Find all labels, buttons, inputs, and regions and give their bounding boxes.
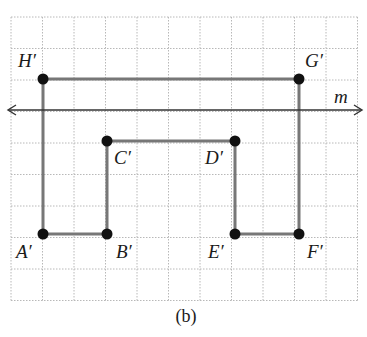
polygon-outline bbox=[43, 79, 299, 234]
label-f-prime: F′ bbox=[306, 241, 324, 262]
label-a-prime: A′ bbox=[14, 241, 33, 262]
reflection-diagram: H′G′C′D′A′B′E′F′ m (b) bbox=[0, 0, 367, 337]
point-g-prime bbox=[294, 74, 305, 85]
line-m-label: m bbox=[334, 86, 348, 107]
label-c-prime: C′ bbox=[114, 147, 132, 168]
point-a-prime bbox=[38, 229, 49, 240]
label-b-prime: B′ bbox=[116, 241, 133, 262]
point-c-prime bbox=[102, 136, 113, 147]
label-g-prime: G′ bbox=[305, 50, 324, 71]
label-d-prime: D′ bbox=[204, 147, 224, 168]
label-h-prime: H′ bbox=[17, 50, 37, 71]
figure-caption: (b) bbox=[176, 306, 197, 327]
point-d-prime bbox=[230, 136, 241, 147]
point-h-prime bbox=[38, 74, 49, 85]
point-f-prime bbox=[294, 229, 305, 240]
point-b-prime bbox=[102, 229, 113, 240]
point-e-prime bbox=[230, 229, 241, 240]
label-e-prime: E′ bbox=[207, 241, 225, 262]
line-m bbox=[8, 105, 362, 115]
